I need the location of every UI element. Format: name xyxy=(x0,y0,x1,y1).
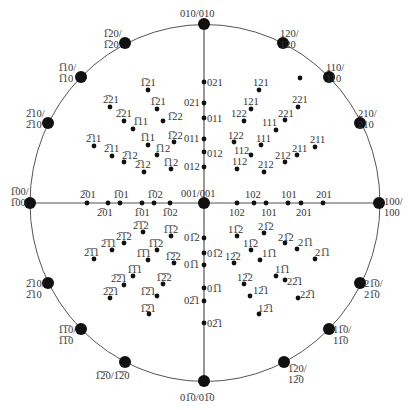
pole-label: 212 xyxy=(275,150,291,161)
pole-label: 2̅1̅1 xyxy=(101,238,116,249)
pole-label: 11̅2 xyxy=(228,224,243,235)
pole-dot xyxy=(264,201,269,206)
pole-dot xyxy=(286,201,291,206)
edge-pole-dot xyxy=(75,71,87,83)
pole-label: 012 xyxy=(207,148,223,159)
edge-pole-dot xyxy=(198,18,210,30)
pole-dot xyxy=(274,128,279,133)
pole-dot xyxy=(248,294,253,299)
edge-pole-dot xyxy=(119,356,131,368)
stereographic-projection: 001/001010/010120/ 120110/ 110210/ 21010… xyxy=(0,0,411,410)
pole-label: 212 xyxy=(258,159,274,170)
pole-label: 102 xyxy=(229,207,245,218)
pole-label: 1̅2̅1 xyxy=(140,286,156,297)
pole-label: 2̅1̅2 xyxy=(116,231,132,242)
pole-label: 1̅11 xyxy=(140,132,155,143)
pole-label: 22̅1 xyxy=(300,289,316,300)
pole-label: 1̅22 xyxy=(167,130,183,141)
pole-label: 1̅02 xyxy=(147,189,163,200)
pole-label: 01̅0/01̅0 xyxy=(180,392,214,403)
pole-label: 2̅21 xyxy=(103,94,119,105)
pole-label: 1̅2̅2 xyxy=(165,251,181,262)
pole-label: 102 xyxy=(245,189,261,200)
pole-label: 1̅21 xyxy=(140,77,156,88)
pole-dot xyxy=(313,145,318,150)
pole-label: 2̅21 xyxy=(116,108,132,119)
pole-label: 1̅2̅2 xyxy=(156,272,172,283)
pole-dot xyxy=(142,170,147,175)
pole-label: 101 xyxy=(281,189,297,200)
pole-label: 1̅1̅0/ 1̅1̅0 xyxy=(58,324,76,346)
pole-label: 02̅1 xyxy=(207,318,223,329)
pole-label: 112 xyxy=(234,145,249,156)
pole-dot xyxy=(296,105,301,110)
pole-label: 021 xyxy=(184,97,200,108)
pole-label: 1̅02 xyxy=(162,207,178,218)
pole-dot xyxy=(131,127,136,132)
pole-label: 122 xyxy=(228,130,244,141)
pole-dot xyxy=(321,201,326,206)
pole-label: 2̅1̅1 xyxy=(84,247,99,258)
pole-label: 1̅01 xyxy=(134,207,150,218)
pole-label: 1̅10/1̅10 xyxy=(58,62,76,84)
pole-label: 211 xyxy=(310,134,325,145)
pole-label: 1̅1̅1 xyxy=(136,248,151,259)
pole-dot xyxy=(202,80,207,85)
pole-label: 2̅11 xyxy=(104,143,119,154)
pole-label: 1̅01 xyxy=(113,189,129,200)
pole-label: 210/ 210 xyxy=(358,108,377,130)
pole-label: 101 xyxy=(261,207,277,218)
pole-label: 1̅2̅1 xyxy=(140,303,156,314)
pole-dot xyxy=(202,251,207,256)
pole-label: 2̅2̅1 xyxy=(103,286,119,297)
edge-pole-dot xyxy=(198,375,210,387)
pole-label: 1̅00/1̅00 xyxy=(10,186,29,208)
pole-label: 11̅2 xyxy=(243,238,258,249)
pole-label: 021 xyxy=(207,77,223,88)
pole-label: 1̅12 xyxy=(163,157,178,168)
pole-dot xyxy=(202,165,207,170)
pole-label: 221 xyxy=(278,108,294,119)
pole-label: 12̅2 xyxy=(225,251,241,262)
pole-dot xyxy=(262,170,267,175)
pole-label: 1̅22 xyxy=(167,111,183,122)
pole-dot xyxy=(252,201,257,206)
pole-label: 122 xyxy=(231,108,247,119)
pole-label: 21̅0/21̅0 xyxy=(364,278,383,300)
pole-dot xyxy=(146,88,151,93)
pole-dot xyxy=(155,107,160,112)
pole-dot xyxy=(202,321,207,326)
pole-label: 221 xyxy=(292,94,308,105)
pole-label: 12̅1 xyxy=(258,303,274,314)
pole-dot xyxy=(202,101,207,106)
pole-label: 2̅10/2̅10 xyxy=(26,278,45,300)
pole-label: 1̅21 xyxy=(150,96,166,107)
pole-label: 2̅01 xyxy=(80,189,96,200)
pole-label: 201 xyxy=(316,189,332,200)
pole-dot xyxy=(202,299,207,304)
pole-dot xyxy=(110,154,115,159)
pole-label: 11̅0/11̅0 xyxy=(333,324,351,346)
pole-dot xyxy=(299,201,304,206)
pole-label: 11̅1 xyxy=(262,248,277,259)
pole-label: 120/ 120 xyxy=(280,28,299,50)
pole-dot xyxy=(108,105,113,110)
pole-dot xyxy=(92,144,97,149)
pole-label: 11̅1 xyxy=(275,264,290,275)
pole-label: 201 xyxy=(296,207,312,218)
pole-label: 100/100 xyxy=(384,196,403,218)
pole-dot xyxy=(202,263,207,268)
pole-dot xyxy=(242,119,247,124)
pole-label: 1̅20/12̅0 xyxy=(288,363,307,385)
pole-label: 2̅01 xyxy=(97,207,113,218)
pole-label: 2̅10/2̅10 xyxy=(26,108,45,130)
pole-label: 001/001 xyxy=(181,188,215,199)
pole-label: 1̅12 xyxy=(155,143,170,154)
pole-label: 110/ 110 xyxy=(326,62,344,84)
pole-label: 01̅2 xyxy=(207,248,223,259)
pole-label: 12̅2 xyxy=(237,272,253,283)
pole-label: 12̅1 xyxy=(253,285,269,296)
pole-label: 1̅20/1̅20 xyxy=(103,28,122,50)
pole-label: 21̅2 xyxy=(258,221,274,232)
pole-dot xyxy=(168,201,173,206)
